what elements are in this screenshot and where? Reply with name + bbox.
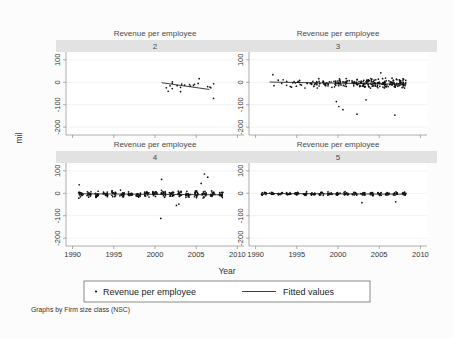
panel-title: Revenue per employee [297, 140, 380, 149]
data-point [103, 191, 105, 193]
y-tick-label: 100 [236, 54, 245, 67]
data-point [313, 86, 315, 88]
data-point [333, 81, 335, 83]
panel-4: Revenue per employee41000-100-2001990199… [53, 140, 254, 259]
data-point [281, 83, 283, 85]
data-point [207, 86, 209, 88]
data-point [200, 183, 202, 185]
data-point [196, 195, 198, 197]
y-tick-label: -200 [53, 231, 62, 246]
data-point [195, 190, 197, 192]
data-point [345, 78, 347, 80]
data-point [176, 205, 178, 207]
y-tick-label: 0 [53, 80, 62, 84]
data-point [277, 79, 279, 81]
data-point [380, 195, 382, 197]
panel-2: Revenue per employee21000-100-200 [53, 29, 254, 138]
data-point [340, 84, 342, 86]
data-point [207, 176, 209, 178]
data-point [322, 80, 324, 82]
data-point [111, 190, 113, 192]
x-tick-label: 2000 [147, 250, 164, 259]
data-point [356, 81, 358, 83]
data-point [404, 87, 406, 89]
data-point [353, 85, 355, 87]
data-point [148, 196, 150, 198]
panel-background [66, 52, 244, 135]
data-point [380, 192, 382, 194]
data-point [144, 195, 146, 197]
data-point [353, 194, 355, 196]
panel-title: Revenue per employee [114, 29, 197, 38]
data-point [180, 86, 182, 88]
data-point [196, 197, 198, 199]
data-point [353, 192, 355, 194]
data-point [185, 196, 187, 198]
data-point [193, 85, 195, 87]
data-point [87, 191, 89, 193]
data-point [375, 79, 377, 81]
panel-strip-label: 5 [336, 153, 341, 162]
data-point [363, 79, 365, 81]
data-point [139, 195, 141, 197]
data-point [342, 109, 344, 111]
data-point [376, 86, 378, 88]
data-point [185, 195, 187, 197]
data-point [304, 87, 306, 89]
panel-background [249, 52, 427, 135]
data-point [106, 191, 108, 193]
data-point [334, 83, 336, 85]
data-point [327, 191, 329, 193]
data-point [164, 196, 166, 198]
data-point [387, 86, 389, 88]
x-tick-label: 2010 [412, 250, 429, 259]
data-point [169, 85, 171, 87]
data-point [306, 191, 308, 193]
data-point [320, 192, 322, 194]
data-point [335, 80, 337, 82]
data-point [111, 194, 113, 196]
data-point [398, 79, 400, 81]
data-point [373, 79, 375, 81]
data-point [180, 91, 182, 93]
data-point [405, 80, 407, 82]
data-point [146, 192, 148, 194]
data-point [196, 191, 198, 193]
data-point [299, 84, 301, 86]
legend-label-fit: Fitted values [283, 287, 335, 297]
y-tick-label: 0 [53, 191, 62, 195]
data-point [79, 196, 81, 198]
data-point [385, 86, 387, 88]
data-point [160, 218, 162, 220]
data-point [152, 191, 154, 193]
data-point [356, 113, 358, 115]
data-point [327, 85, 329, 87]
y-tick-label: -200 [236, 120, 245, 135]
y-tick-label: -100 [236, 97, 245, 112]
data-point [222, 191, 224, 193]
x-tick-label: 1995 [288, 250, 305, 259]
panel-title: Revenue per employee [297, 29, 380, 38]
chart-legend: Revenue per employeeFitted values [84, 281, 370, 302]
data-point [210, 87, 212, 89]
data-point [188, 196, 190, 198]
data-point [195, 192, 197, 194]
data-point [213, 192, 215, 194]
data-point [295, 85, 297, 87]
data-point [299, 80, 301, 82]
x-tick-label: 2000 [330, 250, 347, 259]
data-point [286, 80, 288, 82]
data-point [359, 84, 361, 86]
panel-3: Revenue per employee31000-100-200 [236, 29, 437, 138]
data-point [316, 84, 318, 86]
panel-5: Revenue per employee51000-100-2001990199… [236, 140, 437, 259]
data-point [361, 202, 363, 204]
data-point [318, 85, 320, 87]
data-point [114, 196, 116, 198]
data-point [395, 191, 397, 193]
data-point [165, 195, 167, 197]
data-point [272, 74, 274, 76]
data-point [165, 87, 167, 89]
data-point [343, 81, 345, 83]
data-point [318, 80, 320, 82]
